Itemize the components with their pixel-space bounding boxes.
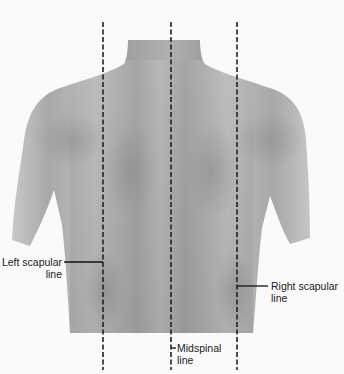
left-scapular-label-line2: line [0, 268, 62, 280]
torso-illustration [0, 0, 344, 374]
left-scapular-label: Left scapular line [0, 256, 62, 280]
midspinal-label: Midspinal line [177, 342, 247, 366]
midspinal-label-line1: Midspinal [177, 342, 247, 354]
right-scapular-label-line2: line [271, 292, 344, 304]
left-scapular-label-line1: Left scapular [0, 256, 62, 268]
right-scapular-label: Right scapular line [271, 280, 344, 304]
midspinal-label-line2: line [177, 354, 247, 366]
right-scapular-label-line1: Right scapular [271, 280, 344, 292]
back-anatomy-diagram: Left scapular line Right scapular line M… [0, 0, 344, 374]
